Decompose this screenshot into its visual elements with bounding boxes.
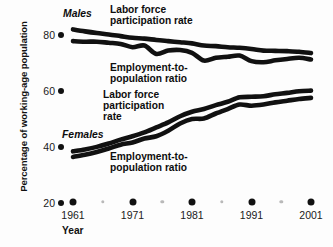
series-group-label-females: Females <box>62 129 104 140</box>
x-axis-tick-label: 1991 <box>240 209 263 221</box>
x-axis-major-tick-dot-icon <box>189 199 196 206</box>
x-axis-tick-label: 1971 <box>121 209 144 221</box>
x-axis-title: Year <box>62 225 84 236</box>
x-axis-tick-label: 1961 <box>61 209 84 221</box>
x-axis-major-tick-dot-icon <box>308 199 315 206</box>
x-axis-major-tick-dot-icon <box>248 199 255 206</box>
series-label-females-employment-to-population-ratio: Employment-to- population ratio <box>110 151 188 173</box>
plot-area <box>0 0 333 247</box>
x-axis-major-tick-dot-icon <box>129 199 136 206</box>
x-axis-major-tick-dot-icon <box>70 199 77 206</box>
chart-container: Percentage of working-age population 80 … <box>0 0 333 247</box>
series-label-females-labor-force-participation-rate: Labor force participation rate <box>103 89 164 122</box>
series-label-males-employment-to-population-ratio: Employment-to- population ratio <box>110 62 188 84</box>
x-axis-tick-label: 2001 <box>299 209 322 221</box>
series-group-label-males: Males <box>63 8 92 19</box>
series-label-males-labor-force-participation-rate: Labor force participation rate <box>110 4 193 26</box>
x-axis-tick-label: 1981 <box>180 209 203 221</box>
